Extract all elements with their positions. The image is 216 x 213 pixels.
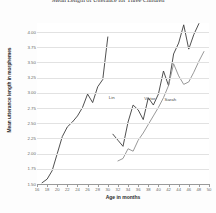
gridline: [37, 47, 209, 48]
y-tick-label: 1.50: [20, 182, 36, 187]
gridline: [37, 138, 209, 139]
x-tick-label: 50: [204, 187, 214, 192]
gridline: [37, 169, 209, 170]
x-tick-label: 32: [113, 187, 123, 192]
gridline: [37, 78, 209, 79]
y-tick-label: 2.75: [20, 106, 36, 111]
gridline: [37, 32, 209, 33]
series-label-lin: Lin: [109, 95, 115, 100]
series-line-victor: [113, 24, 199, 147]
series-label-victor: Victor: [144, 96, 155, 101]
x-tick-label: 20: [52, 187, 62, 192]
gridline: [37, 93, 209, 94]
gridline: [37, 108, 209, 109]
series-line-sarah: [118, 52, 204, 161]
x-tick-label: 48: [194, 187, 204, 192]
gridline: [37, 154, 209, 155]
y-tick-label: 3.00: [20, 90, 36, 95]
y-tick-label: 4.00: [20, 30, 36, 35]
x-tick-label: 24: [72, 187, 82, 192]
x-tick-label: 34: [123, 187, 133, 192]
plot-area: LinVictorSarah: [37, 23, 209, 184]
x-tick-label: 40: [153, 187, 163, 192]
y-tick-label: 3.75: [20, 45, 36, 50]
x-tick-label: 18: [42, 187, 52, 192]
x-tick-label: 42: [164, 187, 174, 192]
x-tick-label: 36: [133, 187, 143, 192]
y-tick-label: 2.50: [20, 121, 36, 126]
chart-figure: Mean Length of Utterance for Three Child…: [0, 0, 216, 213]
x-tick-label: 26: [83, 187, 93, 192]
x-tick-label: 30: [103, 187, 113, 192]
y-tick-label: 2.00: [20, 151, 36, 156]
gridline: [37, 62, 209, 63]
x-tick-label: 38: [143, 187, 153, 192]
y-tick-label: 2.25: [20, 136, 36, 141]
x-tick-label: 28: [93, 187, 103, 192]
y-tick-label: 3.25: [20, 75, 36, 80]
y-axis-tick-labels: 4.003.753.503.253.002.752.502.252.001.75…: [17, 0, 36, 213]
gridline: [37, 123, 209, 124]
x-tick-label: 46: [184, 187, 194, 192]
series-label-sarah: Sarah: [164, 97, 176, 102]
y-tick-label: 1.75: [20, 166, 36, 171]
x-tick-label: 22: [62, 187, 72, 192]
series-line-lin: [42, 37, 108, 183]
x-tick-label: 44: [174, 187, 184, 192]
y-tick-label: 3.50: [20, 60, 36, 65]
y-axis-label: Mean utterance length in morphemes: [7, 57, 12, 133]
x-axis-line: [37, 184, 209, 185]
x-axis-label: Age in months: [37, 194, 209, 200]
